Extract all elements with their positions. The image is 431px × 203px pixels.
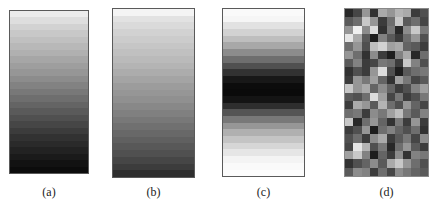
grid-cell xyxy=(362,76,370,84)
grid-cell xyxy=(420,42,428,50)
grid-cell xyxy=(403,134,411,142)
grid-cell xyxy=(370,34,378,42)
grid-cell xyxy=(370,134,378,142)
grid-cell xyxy=(370,118,378,126)
grid-cell xyxy=(353,93,361,101)
panel-b-gradient xyxy=(112,8,195,178)
grid-cell xyxy=(353,126,361,134)
grid-cell xyxy=(387,76,395,84)
gradient-band xyxy=(223,143,304,150)
grid-cell xyxy=(345,143,353,151)
gradient-band xyxy=(223,63,304,70)
grid-cell xyxy=(403,59,411,67)
grid-cell xyxy=(353,168,361,176)
panel-c-gradient xyxy=(222,8,305,177)
grid-cell xyxy=(411,168,419,176)
grid-cell xyxy=(395,9,403,17)
grid-cell xyxy=(387,118,395,126)
grid-cell xyxy=(362,34,370,42)
grid-cell xyxy=(345,126,353,134)
gradient-band xyxy=(113,63,194,70)
grid-cell xyxy=(378,51,386,59)
grid-cell xyxy=(411,151,419,159)
gradient-band xyxy=(223,123,304,130)
grid-cell xyxy=(362,93,370,101)
panel-d-random-grid xyxy=(344,8,429,177)
grid-cell xyxy=(387,93,395,101)
grid-cell xyxy=(362,17,370,25)
gradient-band xyxy=(113,103,194,110)
grid-cell xyxy=(353,17,361,25)
grid-cell xyxy=(403,93,411,101)
grid-cell xyxy=(362,159,370,167)
grid-cell xyxy=(345,34,353,42)
gradient-band xyxy=(223,16,304,23)
grid-cell xyxy=(395,93,403,101)
grid-cell xyxy=(370,101,378,109)
grid-cell xyxy=(411,76,419,84)
grid-cell xyxy=(387,67,395,75)
grid-cell xyxy=(353,109,361,117)
grid-cell xyxy=(411,118,419,126)
grid-cell xyxy=(353,143,361,151)
gradient-band xyxy=(113,170,194,177)
grid-cell xyxy=(387,51,395,59)
grid-cell xyxy=(362,67,370,75)
gradient-band xyxy=(223,83,304,90)
gradient-band xyxy=(113,83,194,90)
grid-cell xyxy=(353,151,361,159)
grid-cell xyxy=(378,76,386,84)
caption-a: (a) xyxy=(29,185,69,200)
grid-cell xyxy=(362,109,370,117)
grid-cell xyxy=(362,134,370,142)
grid-cell xyxy=(387,126,395,134)
gradient-band xyxy=(223,49,304,56)
gradient-band xyxy=(223,149,304,156)
grid-cell xyxy=(353,84,361,92)
grid-cell xyxy=(395,101,403,109)
grid-cell xyxy=(378,101,386,109)
grid-cell xyxy=(411,26,419,34)
grid-cell xyxy=(362,151,370,159)
grid-cell xyxy=(378,159,386,167)
grid-cell xyxy=(370,143,378,151)
grid-cell xyxy=(362,126,370,134)
grid-cell xyxy=(403,76,411,84)
grid-cell xyxy=(353,134,361,142)
grid-cell xyxy=(345,134,353,142)
grid-cell xyxy=(378,134,386,142)
grid-cell xyxy=(362,101,370,109)
grid-cell xyxy=(395,134,403,142)
grid-cell xyxy=(353,9,361,17)
grid-cell xyxy=(387,151,395,159)
grid-cell xyxy=(370,84,378,92)
gradient-band xyxy=(113,76,194,83)
gradient-band xyxy=(113,90,194,97)
grid-cell xyxy=(387,134,395,142)
grid-cell xyxy=(370,67,378,75)
grid-cell xyxy=(345,159,353,167)
grid-cell xyxy=(420,9,428,17)
grid-cell xyxy=(403,17,411,25)
grid-cell xyxy=(403,118,411,126)
gradient-band xyxy=(113,22,194,29)
gradient-band xyxy=(223,9,304,16)
grid-cell xyxy=(345,109,353,117)
grid-cell xyxy=(362,42,370,50)
grid-cell xyxy=(353,26,361,34)
grid-cell xyxy=(420,159,428,167)
grid-cell xyxy=(387,109,395,117)
grid-cell xyxy=(362,26,370,34)
gradient-band xyxy=(223,22,304,29)
grid-cell xyxy=(345,84,353,92)
grid-cell xyxy=(411,159,419,167)
grid-cell xyxy=(370,26,378,34)
grid-cell xyxy=(395,109,403,117)
grid-cell xyxy=(411,109,419,117)
grid-cell xyxy=(420,67,428,75)
grid-cell xyxy=(370,42,378,50)
grid-cell xyxy=(387,84,395,92)
grid-cell xyxy=(378,67,386,75)
grid-cell xyxy=(420,59,428,67)
grid-cell xyxy=(395,59,403,67)
